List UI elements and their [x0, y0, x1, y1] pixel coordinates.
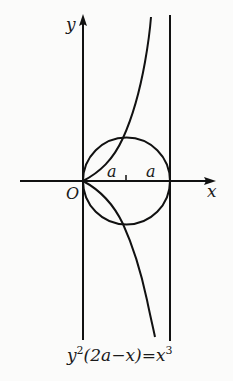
equation-paren: (2a−x) — [84, 345, 142, 365]
y-axis-label: y — [65, 14, 76, 34]
cissoid-diagram: y x O a a y2(2a−x)=x3 — [0, 0, 233, 381]
equation-x: x — [156, 345, 166, 365]
curve-equation: y2(2a−x)=x3 — [66, 344, 173, 365]
cissoid-upper-branch — [83, 17, 151, 181]
x-axis-label: x — [207, 181, 217, 201]
svg-text:y2(2a−x)=x3: y2(2a−x)=x3 — [66, 344, 173, 365]
equation-equals: = — [142, 345, 156, 365]
radius-label-left: a — [107, 162, 117, 181]
equation-x-exponent: 3 — [166, 344, 173, 357]
origin-label: O — [66, 184, 79, 203]
cissoid-lower-branch — [83, 181, 155, 337]
equation-y: y — [66, 345, 77, 365]
equation-y-exponent: 2 — [77, 344, 84, 357]
radius-label-right: a — [146, 162, 156, 181]
